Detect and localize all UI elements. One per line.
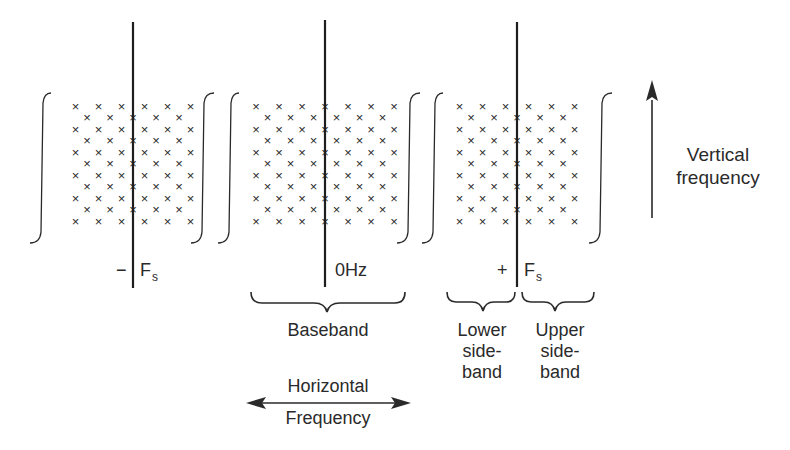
sample-point-marker: ×: [344, 99, 352, 114]
sample-point-marker: ×: [490, 133, 498, 148]
sample-point-marker: ×: [106, 156, 114, 171]
sample-point-marker: ×: [141, 191, 149, 206]
sample-point-marker: ×: [467, 133, 475, 148]
sample-point-marker: ×: [106, 179, 114, 194]
sample-point-marker: ×: [479, 99, 487, 114]
sample-point-marker: ×: [525, 99, 533, 114]
sample-point-marker: ×: [152, 202, 160, 217]
left-bracket: [422, 93, 443, 243]
sample-point-marker: ×: [490, 179, 498, 194]
sample-point-marker: ×: [379, 110, 387, 125]
sample-point-marker: ×: [344, 214, 352, 229]
right-bracket: [589, 93, 612, 243]
sample-point-marker: ×: [72, 145, 80, 160]
sample-point-marker: ×: [275, 122, 283, 137]
sample-point-marker: ×: [356, 202, 364, 217]
fs-subscript: s: [152, 270, 158, 284]
spectrum-panel-minus-fs: ××××××××××××××××××××××××××××××××××××××××…: [30, 22, 214, 288]
sample-point-marker: ×: [95, 122, 103, 137]
sample-point-marker: ×: [390, 191, 398, 206]
sample-point-marker: ×: [367, 214, 375, 229]
sample-point-marker: ×: [333, 202, 341, 217]
sample-point-marker: ×: [187, 191, 195, 206]
sample-point-marker: ×: [344, 122, 352, 137]
sample-point-marker: ×: [456, 122, 464, 137]
sample-point-marker: ×: [72, 99, 80, 114]
sample-point-marker: ×: [118, 99, 126, 114]
sample-point-marker: ×: [95, 168, 103, 183]
sample-point-marker: ×: [525, 214, 533, 229]
sample-point-marker: ×: [344, 168, 352, 183]
lower-sideband-brace: [447, 292, 515, 311]
sample-point-marker: ×: [525, 145, 533, 160]
sample-point-marker: ×: [72, 168, 80, 183]
sample-point-marker: ×: [106, 133, 114, 148]
sample-point-marker: ×: [390, 214, 398, 229]
fs-label: F: [140, 260, 151, 280]
sample-point-marker: ×: [95, 145, 103, 160]
sample-point-marker: ×: [298, 191, 306, 206]
sample-point-marker: ×: [456, 99, 464, 114]
sample-point-marker: ×: [72, 214, 80, 229]
upper-sideband-text: Upper side- band: [535, 320, 584, 382]
sample-point-marker: ×: [467, 110, 475, 125]
lower-sideband-line1: Lower: [457, 320, 506, 340]
sample-point-marker: ×: [559, 110, 567, 125]
sample-point-marker: ×: [367, 122, 375, 137]
sample-point-marker: ×: [141, 214, 149, 229]
sample-point-marker: ×: [275, 145, 283, 160]
sample-point-marker: ×: [152, 133, 160, 148]
lower-sideband-text: Lower side- band: [457, 320, 506, 382]
sample-point-marker: ×: [95, 191, 103, 206]
spectrum-diagram: ××××××××××××××××××××××××××××××××××××××××…: [0, 0, 790, 450]
sample-point-marker: ×: [275, 168, 283, 183]
sample-point-marker: ×: [164, 191, 172, 206]
sample-point-marker: ×: [118, 191, 126, 206]
sample-point-marker: ×: [252, 122, 260, 137]
sample-point-marker: ×: [175, 110, 183, 125]
sample-point-marker: ×: [264, 202, 272, 217]
baseband-label: 0Hz: [335, 260, 367, 280]
sample-point-marker: ×: [83, 110, 91, 125]
sample-point-marker: ×: [356, 133, 364, 148]
sample-point-marker: ×: [467, 156, 475, 171]
sample-point-marker: ×: [298, 214, 306, 229]
sample-point-marker: ×: [367, 168, 375, 183]
sample-point-marker: ×: [571, 122, 579, 137]
sample-point-marker: ×: [356, 156, 364, 171]
sample-point-marker: ×: [548, 122, 556, 137]
sample-point-marker: ×: [379, 156, 387, 171]
sample-point-marker: ×: [490, 202, 498, 217]
sample-point-marker: ×: [548, 214, 556, 229]
baseband-brace: [251, 292, 405, 312]
sample-point-marker: ×: [72, 122, 80, 137]
sample-point-marker: ×: [141, 145, 149, 160]
fs-label: F: [524, 260, 535, 280]
vertical-axis-label-line2: frequency: [676, 167, 760, 188]
sample-point-marker: ×: [356, 179, 364, 194]
sample-point-marker: ×: [548, 191, 556, 206]
sample-point-marker: ×: [479, 191, 487, 206]
sample-point-marker: ×: [333, 110, 341, 125]
sample-point-marker: ×: [164, 168, 172, 183]
horizontal-frequency-axis: Horizontal Frequency: [246, 376, 411, 428]
sample-point-marker: ×: [287, 133, 295, 148]
sample-point-marker: ×: [152, 179, 160, 194]
sample-point-marker: ×: [467, 179, 475, 194]
sample-point-marker: ×: [571, 145, 579, 160]
sample-point-marker: ×: [333, 156, 341, 171]
sample-point-marker: ×: [479, 145, 487, 160]
sample-point-marker: ×: [164, 214, 172, 229]
spectra-group: ××××××××××××××××××××××××××××××××××××××××…: [30, 20, 612, 288]
right-bracket: [191, 93, 214, 243]
sample-point-marker: ×: [152, 156, 160, 171]
sample-point-marker: ×: [252, 214, 260, 229]
left-bracket: [218, 93, 239, 243]
sample-point-marker: ×: [536, 110, 544, 125]
sample-point-marker: ×: [287, 110, 295, 125]
sample-point-marker: ×: [164, 99, 172, 114]
sample-point-marker: ×: [83, 202, 91, 217]
sample-point-marker: ×: [571, 168, 579, 183]
sample-point-marker: ×: [141, 168, 149, 183]
sample-point-marker: ×: [390, 145, 398, 160]
